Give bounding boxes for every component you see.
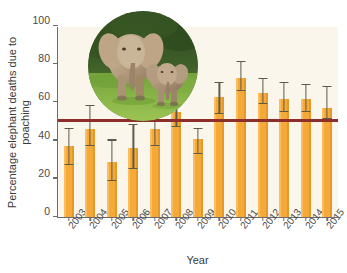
- error-bar: [327, 87, 328, 119]
- error-bar: [68, 129, 69, 165]
- bar: [236, 78, 246, 217]
- bar-slot: 2014: [295, 27, 317, 217]
- y-axis-title: Percentage elephant deaths due to poachi…: [2, 27, 36, 218]
- bar-slot: 2011: [230, 27, 252, 217]
- y-axis-tick-label: 20: [38, 167, 50, 179]
- error-bar-cap-lower: [280, 111, 289, 112]
- error-bar-cap-lower: [129, 168, 138, 169]
- y-axis-tick: [53, 101, 58, 102]
- error-bar-cap-lower: [150, 145, 159, 146]
- reference-line: [58, 119, 338, 121]
- bar-slot: 2015: [316, 27, 338, 217]
- elephant-photo-inset: [84, 11, 202, 121]
- error-bar-cap-lower: [172, 126, 181, 127]
- error-bar-cap-lower: [193, 153, 202, 154]
- error-bar: [219, 83, 220, 114]
- error-bar: [133, 125, 134, 169]
- y-axis-tick: [53, 63, 58, 64]
- error-bar-cap-lower: [258, 103, 267, 104]
- x-axis-title: Year: [57, 254, 338, 266]
- bar: [322, 108, 332, 217]
- bar-slot: 2012: [252, 27, 274, 217]
- bar: [258, 93, 268, 217]
- error-bar-cap-upper: [86, 105, 95, 106]
- bar: [214, 97, 224, 217]
- y-axis-tick-label: 0: [44, 205, 50, 217]
- error-bar-cap-lower: [215, 113, 224, 114]
- error-bar-cap-lower: [237, 90, 246, 91]
- y-axis-tick-label: 60: [38, 90, 50, 102]
- bar-slot: 2010: [209, 27, 231, 217]
- error-bar: [262, 79, 263, 104]
- error-bar-cap-lower: [86, 145, 95, 146]
- error-bar-cap-lower: [301, 111, 310, 112]
- y-axis-tick-label: 80: [38, 52, 50, 64]
- error-bar: [111, 141, 112, 181]
- y-axis-tick: [53, 216, 58, 217]
- error-bar-cap-upper: [323, 86, 332, 87]
- y-axis-tick-label: 40: [38, 129, 50, 141]
- bar-slot: 2013: [273, 27, 295, 217]
- y-axis-tick: [53, 177, 58, 178]
- error-bar-cap-upper: [280, 82, 289, 83]
- error-bar-cap-upper: [215, 82, 224, 83]
- bar-slot: 2003: [58, 27, 80, 217]
- elephant-photo-image: [84, 11, 202, 121]
- error-bar-cap-upper: [129, 124, 138, 125]
- error-bar-cap-upper: [64, 128, 73, 129]
- error-bar: [197, 129, 198, 154]
- error-bar-cap-upper: [193, 128, 202, 129]
- error-bar: [283, 83, 284, 112]
- error-bar-cap-upper: [237, 61, 246, 62]
- error-bar-cap-upper: [107, 139, 116, 140]
- y-axis-tick: [53, 25, 58, 26]
- bar: [171, 112, 181, 217]
- error-bar-cap-upper: [258, 78, 267, 79]
- error-bar: [240, 62, 241, 91]
- error-bar: [305, 85, 306, 112]
- y-axis-tick-label: 100: [32, 14, 50, 26]
- error-bar-cap-upper: [301, 84, 310, 85]
- bar: [279, 99, 289, 217]
- y-axis-tick: [53, 139, 58, 140]
- error-bar: [90, 106, 91, 146]
- bar: [301, 99, 311, 217]
- error-bar-cap-lower: [107, 180, 116, 181]
- error-bar-cap-lower: [64, 164, 73, 165]
